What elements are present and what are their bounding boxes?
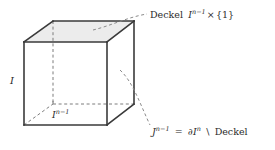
label-deckel-top-word: Deckel: [150, 9, 183, 20]
label-deckel-top: Deckel In−1×{1}: [150, 9, 234, 20]
label-deckel-top-exponent: n−1: [192, 8, 206, 16]
label-jn-equals: =: [175, 126, 183, 137]
label-in-bottom: In−1: [52, 109, 69, 120]
cube-diagram: Deckel In−1×{1} Jn−1 = ∂In \ Deckel I In…: [0, 0, 275, 150]
label-jn-word: Deckel: [215, 126, 248, 137]
label-interval-left-base: I: [10, 75, 14, 86]
label-in-bottom-exponent: n−1: [56, 108, 70, 116]
label-deckel-top-set: {1}: [216, 9, 234, 20]
label-interval-left: I: [10, 76, 14, 86]
label-jn-equation: Jn−1 = ∂In \ Deckel: [152, 126, 248, 137]
label-deckel-top-operator: ×: [206, 9, 216, 20]
label-jn-exponent: n−1: [156, 125, 170, 133]
